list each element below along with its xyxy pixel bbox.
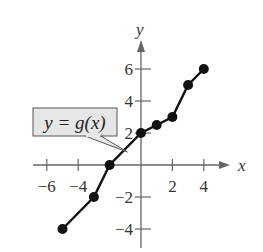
series-g <box>58 64 209 234</box>
y-tick-label: 6 <box>125 60 134 79</box>
y-tick-label: −4 <box>115 220 134 239</box>
data-point <box>58 224 68 234</box>
callout-pointer <box>85 136 127 152</box>
series-line <box>63 69 204 229</box>
data-point <box>199 64 209 74</box>
callout: y = g(x) <box>33 108 127 152</box>
data-point <box>89 192 99 202</box>
data-point <box>152 120 162 130</box>
x-axis-label: x <box>237 156 246 175</box>
x-axis-arrow-icon <box>219 161 230 169</box>
x-tick-label: 4 <box>200 177 209 196</box>
x-tick-label: 2 <box>168 177 177 196</box>
data-point <box>136 128 146 138</box>
y-tick-label: 2 <box>125 124 134 143</box>
data-point <box>105 160 115 170</box>
x-tick-label: −6 <box>38 177 56 196</box>
chart: xy −6−424642−2−4 y = g(x) <box>0 0 263 252</box>
y-tick-label: 4 <box>125 92 134 111</box>
x-tick-label: −4 <box>69 177 88 196</box>
data-point <box>183 80 193 90</box>
y-axis-label: y <box>134 20 144 39</box>
callout-label: y = g(x) <box>42 112 105 134</box>
y-tick-label: −2 <box>115 188 133 207</box>
y-axis-arrow-icon <box>137 40 145 52</box>
data-point <box>167 112 177 122</box>
